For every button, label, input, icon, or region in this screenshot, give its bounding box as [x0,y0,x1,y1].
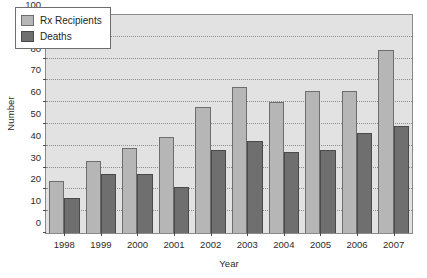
y-axis-tick-label: 60 [30,86,41,97]
bar-2002-deaths [211,150,226,233]
x-axis-tick-mark [394,233,395,236]
bar-2005-deaths [320,150,335,233]
y-axis-tick-label: 30 [30,151,41,162]
chart-legend: Rx Recipients Deaths [15,7,111,49]
x-axis-tick-mark [101,233,102,236]
x-axis-tick-label-1999: 1999 [90,239,111,250]
legend-item-rx-recipients: Rx Recipients [21,12,102,28]
bar-1998-deaths [64,198,79,233]
x-axis-tick-label-2000: 2000 [127,239,148,250]
legend-label-deaths: Deaths [40,31,72,42]
bar-2005-rx-recipients [305,91,320,233]
legend-item-deaths: Deaths [21,28,102,44]
bar-2004-rx-recipients [269,102,284,233]
bar-2000-deaths [137,174,152,233]
y-axis-tick-label: 50 [30,108,41,119]
legend-swatch-deaths-icon [21,31,34,42]
bar-1999-deaths [101,174,116,233]
x-axis-tick-label-2006: 2006 [346,239,367,250]
bar-group-2006: 2006 [339,15,376,233]
x-axis-tick-mark [284,233,285,236]
x-axis-tick-label-2002: 2002 [200,239,221,250]
x-axis-tick-mark [320,233,321,236]
x-axis-tick-mark [211,233,212,236]
bar-2004-deaths [284,152,299,233]
bar-group-2002: 2002 [192,15,229,233]
x-axis-title: Year [45,258,413,269]
x-axis-tick-mark [137,233,138,236]
x-axis-tick-label-2007: 2007 [383,239,404,250]
bar-group-2007: 2007 [375,15,412,233]
bar-2003-rx-recipients [232,87,247,233]
bar-group-2001: 2001 [156,15,193,233]
y-axis-tick-label: 20 [30,173,41,184]
bar-1998-rx-recipients [49,181,64,233]
bar-2003-deaths [247,141,262,233]
x-axis-tick-mark [174,233,175,236]
bar-2007-deaths [394,126,409,233]
x-axis-tick-label-2005: 2005 [310,239,331,250]
bar-group-2005: 2005 [302,15,339,233]
bar-2006-rx-recipients [342,91,357,233]
x-axis-tick-mark [64,233,65,236]
x-axis-tick-label-2003: 2003 [237,239,258,250]
bar-2006-deaths [357,133,372,233]
x-axis-tick-mark [247,233,248,236]
y-axis-tick-label: 10 [30,195,41,206]
bar-group-2003: 2003 [229,15,266,233]
legend-label-rx-recipients: Rx Recipients [40,15,102,26]
y-axis-tick-label: 70 [30,64,41,75]
bar-2001-rx-recipients [159,137,174,233]
y-axis-title: Number [5,82,16,146]
y-axis-tick-label: 40 [30,129,41,140]
bar-group-2004: 2004 [266,15,303,233]
x-axis-tick-label-2004: 2004 [273,239,294,250]
bar-2001-deaths [174,187,189,233]
bar-2007-rx-recipients [378,50,393,233]
bar-2000-rx-recipients [122,148,137,233]
y-axis-tick-label: 0 [36,217,41,228]
bar-2002-rx-recipients [195,107,210,233]
x-axis-tick-label-2001: 2001 [164,239,185,250]
legend-swatch-rx-recipients-icon [21,15,34,26]
x-axis-tick-mark [357,233,358,236]
x-axis-tick-label-1998: 1998 [54,239,75,250]
bar-1999-rx-recipients [86,161,101,233]
bar-group-2000: 2000 [119,15,156,233]
bar-chart-figure: Number Year 0102030405060708090100 19981… [0,0,427,278]
